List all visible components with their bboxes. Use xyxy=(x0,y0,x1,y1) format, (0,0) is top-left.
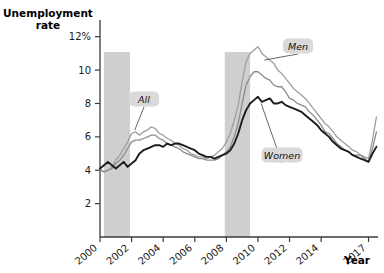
y-tick-label: 8 xyxy=(85,98,91,109)
x-axis: 200020022004200620082010201220142017 xyxy=(73,237,378,267)
x-tick-label: 2000 xyxy=(73,242,100,267)
x-tick-label: 2008 xyxy=(199,242,226,267)
y-tick-label: 6 xyxy=(85,131,91,142)
y-tick-label: 2 xyxy=(85,198,91,209)
x-tick-label: 2004 xyxy=(136,242,163,267)
callout-label-women: Women xyxy=(264,150,300,161)
y-tick-label: 10 xyxy=(78,65,91,76)
x-tick-label: 2006 xyxy=(167,242,194,267)
y-axis: 12%108642 xyxy=(69,20,100,237)
y-tick-label: 4 xyxy=(85,165,91,176)
callout-label-men: Men xyxy=(288,41,308,52)
x-tick-label: 2014 xyxy=(294,242,321,267)
chart-svg: 12%108642 200020022004200620082010201220… xyxy=(0,0,384,273)
y-axis-title: Unemployment rate xyxy=(2,7,94,31)
x-axis-title: Year xyxy=(344,254,370,266)
annotation-leader-lines xyxy=(135,54,298,163)
recession-band xyxy=(225,52,250,237)
x-tick-label: 2012 xyxy=(262,242,289,267)
x-tick-label: 2010 xyxy=(231,242,258,267)
annotation-callouts: AllMenWomen xyxy=(129,39,313,163)
y-axis-title-line1: Unemployment xyxy=(2,7,94,19)
unemployment-rate-chart: 12%108642 200020022004200620082010201220… xyxy=(0,0,384,273)
callout-label-all: All xyxy=(137,94,150,105)
leader-line-men xyxy=(264,54,298,60)
y-axis-title-line2: rate xyxy=(2,19,94,31)
x-tick-label: 2002 xyxy=(104,242,131,267)
y-tick-label: 12% xyxy=(69,31,91,42)
leader-line-all xyxy=(135,107,144,130)
